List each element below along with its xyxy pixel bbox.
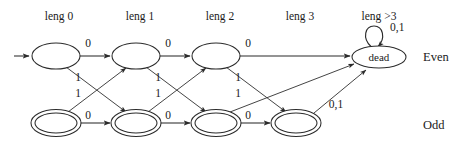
state-even-leng0[interactable] <box>32 43 80 69</box>
edge-label-dead-selfloop: 0,1 <box>390 21 405 34</box>
state-odd-leng2[interactable] <box>191 110 241 137</box>
edge-label-e1-e2: 0 <box>165 37 171 49</box>
edge-label-e1-o2: 1 <box>155 71 161 83</box>
edge-label-e2-o3: 1 <box>235 71 241 83</box>
edge-label-o2-o3: 0 <box>245 109 251 121</box>
fsm-canvas: dead leng 0 leng 1 leng 2 leng 3 leng >3… <box>0 0 465 144</box>
column-header-leng1: leng 1 <box>126 10 155 23</box>
state-even-leng1[interactable] <box>112 43 160 69</box>
row-label-even: Even <box>423 50 449 64</box>
column-header-leng2: leng 2 <box>206 10 235 23</box>
edge-label-o0-o1: 0 <box>85 109 91 121</box>
edge-label-o3-dead: 0,1 <box>329 98 344 111</box>
row-label-odd: Odd <box>423 118 445 132</box>
column-header-leng3: leng 3 <box>286 10 315 23</box>
edge-dead-selfloop <box>366 26 383 47</box>
edge-label-o1-o2: 0 <box>165 109 171 121</box>
fsm-diagram: dead leng 0 leng 1 leng 2 leng 3 leng >3… <box>0 0 465 144</box>
edge-label-o0-e1: 1 <box>75 87 81 99</box>
state-dead-label: dead <box>369 51 390 63</box>
edge-label-o1-e2: 1 <box>155 87 161 99</box>
state-even-leng2[interactable] <box>192 43 240 69</box>
edge-label-o2-dead: 1 <box>235 87 241 99</box>
state-odd-leng0[interactable] <box>31 110 81 137</box>
state-odd-leng3[interactable] <box>271 110 321 137</box>
edge-label-e2-dead: 0 <box>245 37 251 49</box>
column-header-leng0: leng 0 <box>45 10 74 23</box>
state-odd-leng1[interactable] <box>111 110 161 137</box>
edge-label-e0-e1: 0 <box>85 37 91 49</box>
edge-label-e0-o1: 1 <box>75 71 81 83</box>
